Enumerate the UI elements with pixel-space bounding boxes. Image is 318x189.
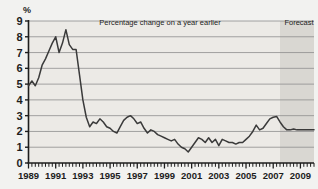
chart-annotation-label: Percentage change on a year earlier <box>99 18 221 27</box>
x-tick-label: 1989 <box>18 170 39 181</box>
x-tick-label: 1997 <box>127 170 148 181</box>
y-tick-label: 7 <box>16 47 22 59</box>
y-tick-label: 0 <box>16 157 22 169</box>
x-tick-label: 2009 <box>290 170 311 181</box>
x-tick-label: 2007 <box>263 170 284 181</box>
y-axis-unit-label: % <box>23 5 31 15</box>
x-tick-label: 1993 <box>72 170 93 181</box>
x-tick-label: 1999 <box>154 170 175 181</box>
x-tick-label: 1995 <box>100 170 122 181</box>
chart-canvas: 0123456789 19891991199319951997199920012… <box>0 0 318 189</box>
y-tick-label: 5 <box>16 78 22 90</box>
y-tick-label: 2 <box>16 125 22 137</box>
y-tick-label: 1 <box>16 141 22 153</box>
x-tick-label: 2005 <box>235 170 257 181</box>
y-tick-label: 4 <box>16 94 23 106</box>
x-axis-tick-labels: 1989199119931995199719992001200320052007… <box>18 170 311 181</box>
y-tick-label: 9 <box>16 15 22 27</box>
y-tick-label: 6 <box>16 62 22 74</box>
inflation-chart: 0123456789 19891991199319951997199920012… <box>0 0 318 189</box>
x-tick-label: 2001 <box>181 170 203 181</box>
x-tick-label: 2003 <box>208 170 229 181</box>
forecast-shaded-region <box>280 21 314 163</box>
plot-area-background <box>29 21 315 163</box>
y-tick-label: 3 <box>16 110 22 122</box>
y-tick-label: 8 <box>16 31 22 43</box>
x-tick-label: 1991 <box>45 170 67 181</box>
forecast-label: Forecast <box>284 18 314 27</box>
